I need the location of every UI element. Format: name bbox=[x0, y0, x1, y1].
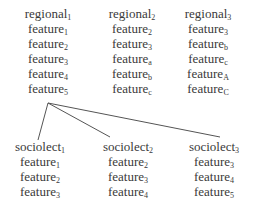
feature-item: featurec bbox=[168, 51, 248, 66]
feature-item: feature2 bbox=[8, 36, 88, 51]
feature-item: featureC bbox=[168, 81, 248, 96]
sociolect-column-2: sociolect2 feature2 feature3 feature4 bbox=[88, 139, 168, 199]
regional-heading: regional3 bbox=[168, 6, 248, 21]
feature-item: feature5 bbox=[8, 81, 88, 96]
sociolect-heading: sociolect2 bbox=[88, 139, 168, 154]
link-to-sociolect-2 bbox=[48, 103, 110, 137]
feature-item: featurea bbox=[92, 51, 172, 66]
regional-column-2: regional2 feature2 feature3 featurea fea… bbox=[92, 6, 172, 96]
feature-item: feature4 bbox=[174, 169, 254, 184]
sociolect-column-3: sociolect3 feature3 feature4 feature5 bbox=[174, 139, 254, 199]
sociolect-heading: sociolect3 bbox=[174, 139, 254, 154]
feature-item: feature2 bbox=[92, 21, 172, 36]
regional-heading: regional2 bbox=[92, 6, 172, 21]
regional-column-3: regional3 feature3 featureb featurec fea… bbox=[168, 6, 248, 96]
feature-item: feature1 bbox=[8, 21, 88, 36]
regional-column-1: regional1 feature1 feature2 feature3 fea… bbox=[8, 6, 88, 96]
feature-item: feature2 bbox=[0, 169, 80, 184]
feature-item: feature3 bbox=[92, 36, 172, 51]
feature-item: feature3 bbox=[174, 154, 254, 169]
feature-item: feature3 bbox=[8, 51, 88, 66]
feature-item: feature3 bbox=[168, 21, 248, 36]
link-to-sociolect-3 bbox=[48, 103, 220, 137]
sociolect-heading: sociolect1 bbox=[0, 139, 80, 154]
feature-item: feature4 bbox=[8, 66, 88, 81]
feature-item: featurec bbox=[92, 81, 172, 96]
feature-item: feature1 bbox=[0, 154, 80, 169]
feature-item: feature4 bbox=[88, 184, 168, 199]
link-to-sociolect-1 bbox=[38, 103, 48, 140]
feature-item: featureb bbox=[92, 66, 172, 81]
feature-item: featureb bbox=[168, 36, 248, 51]
sociolect-column-1: sociolect1 feature1 feature2 feature3 bbox=[0, 139, 80, 199]
feature-item: featureA bbox=[168, 66, 248, 81]
feature-item: feature3 bbox=[0, 184, 80, 199]
feature-item: feature3 bbox=[88, 169, 168, 184]
feature-item: feature2 bbox=[88, 154, 168, 169]
regional-heading: regional1 bbox=[8, 6, 88, 21]
feature-item: feature5 bbox=[174, 184, 254, 199]
